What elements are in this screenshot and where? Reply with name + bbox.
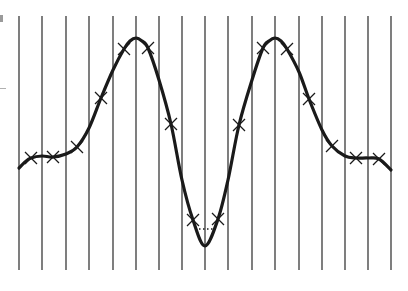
- cross-marker-icon: [326, 140, 338, 152]
- cross-marker-icon: [142, 42, 154, 54]
- cross-marker-icon: [118, 43, 130, 55]
- cross-marker-icon: [71, 141, 83, 153]
- cross-marker-icon: [281, 43, 293, 55]
- waveform-plot: [0, 0, 408, 291]
